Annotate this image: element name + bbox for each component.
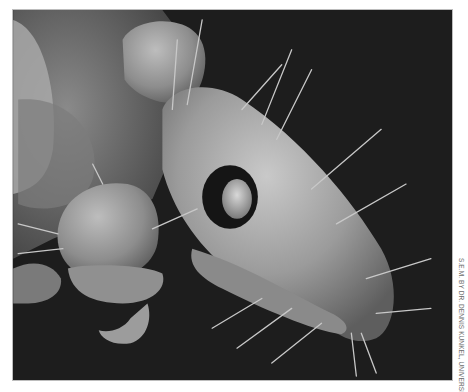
sem-micrograph bbox=[12, 9, 453, 381]
photo-credit: S.E.M. BY DR. DENNIS KUNKEL, UNIVERSITY … bbox=[455, 258, 467, 388]
sem-specimen-illustration bbox=[13, 10, 452, 380]
page: S.E.M. BY DR. DENNIS KUNKEL, UNIVERSITY … bbox=[0, 0, 468, 392]
compound-eye bbox=[222, 179, 252, 219]
